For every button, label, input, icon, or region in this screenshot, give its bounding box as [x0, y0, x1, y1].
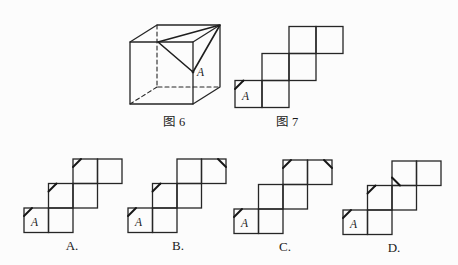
net-vertex-label: A — [30, 216, 39, 228]
cube-front-face — [130, 42, 193, 104]
net-square — [289, 54, 316, 81]
option-a-label: A. — [66, 238, 79, 253]
corner-triangle-mark — [73, 159, 81, 167]
net-square — [177, 159, 202, 184]
net-square — [289, 27, 316, 54]
corner-triangle-mark — [235, 81, 244, 90]
figure7-net: A — [235, 27, 343, 108]
corner-triangle-mark — [324, 160, 332, 168]
net-square — [153, 208, 178, 233]
option-c-net: A — [234, 160, 332, 234]
corner-triangle-mark — [49, 184, 57, 192]
corner-triangle-mark — [392, 178, 400, 186]
math-problem-figure: A 图 6 A 图 7 A A. A B. A C. A D. — [0, 0, 458, 265]
cube-figure: A 图 6 — [130, 25, 220, 129]
net-square — [262, 81, 289, 108]
cube-vertex-label: A — [196, 66, 205, 78]
corner-triangle-mark — [283, 160, 291, 168]
option-b-net: A — [128, 159, 226, 233]
net-square — [259, 185, 284, 210]
figure-canvas: A 图 6 A 图 7 A A. A B. A C. A D. — [0, 0, 458, 265]
net-square — [49, 208, 74, 233]
net-square — [392, 186, 417, 211]
net-square — [283, 185, 308, 210]
net-square — [262, 54, 289, 81]
net-square — [177, 184, 202, 209]
option-d-label: D. — [388, 240, 401, 255]
corner-triangle — [158, 25, 220, 72]
net-square — [316, 27, 343, 54]
corner-triangle-mark — [218, 159, 226, 167]
option-c-label: C. — [279, 239, 291, 254]
net-square — [368, 210, 393, 235]
option-b-label: B. — [172, 238, 184, 253]
net-vertex-label: A — [349, 218, 358, 230]
corner-triangle-mark — [368, 186, 376, 194]
net-vertex-label: A — [241, 90, 250, 102]
figure7-caption: 图 7 — [276, 115, 298, 129]
figure6-caption: 图 6 — [163, 115, 185, 129]
net-square — [73, 184, 98, 209]
net-square — [417, 161, 442, 186]
net-vertex-label: A — [240, 217, 249, 229]
net-vertex-label: A — [134, 216, 143, 228]
option-a-net: A — [24, 159, 122, 233]
net-square — [259, 209, 284, 234]
corner-triangle-mark — [153, 184, 161, 192]
vertex-point-A — [192, 71, 195, 74]
net-square — [98, 159, 123, 184]
option-d-net: A — [343, 161, 441, 235]
